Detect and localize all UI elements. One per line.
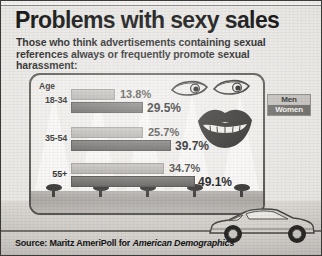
lips-icon — [194, 106, 256, 154]
bar-value-men: 13.8% — [120, 88, 151, 100]
bar-men — [71, 127, 143, 138]
top-rule — [1, 1, 322, 6]
bar-women — [71, 176, 195, 187]
source-prefix: Source: Maritz AmeriPoll for — [15, 238, 132, 248]
bar-women — [71, 102, 143, 113]
bar-value-women: 49.1% — [198, 175, 232, 189]
bar-men — [71, 89, 115, 100]
eye-icon — [213, 78, 251, 98]
category-label: 18-34 — [35, 95, 67, 105]
subtitle: Those who think advertisements containin… — [16, 37, 306, 72]
bar-men — [71, 163, 164, 174]
source-publication: American Demographics — [132, 238, 234, 248]
infographic: Problems with sexy sales Those who think… — [0, 0, 322, 256]
legend-item-men: Men — [268, 95, 310, 105]
legend: Men Women — [267, 94, 311, 116]
legend-item-women: Women — [268, 105, 310, 115]
category-label: 35-54 — [35, 133, 67, 143]
bar-value-women: 29.5% — [147, 101, 181, 115]
category-label: 55+ — [35, 169, 67, 179]
source-line: Source: Maritz AmeriPoll for American De… — [15, 238, 234, 248]
bar-women — [71, 140, 171, 151]
age-axis-header: Age — [39, 81, 55, 91]
chart-plot-area: Age 18-34 13.8% 29.5% 35-54 25.7% 39.7% — [31, 75, 263, 213]
chart-panel: Age 18-34 13.8% 29.5% 35-54 25.7% 39.7% — [29, 73, 265, 215]
bar-value-men: 25.7% — [148, 126, 179, 138]
page-title: Problems with sexy sales — [15, 8, 279, 33]
eye-icon — [171, 79, 209, 99]
bar-value-men: 34.7% — [169, 162, 200, 174]
